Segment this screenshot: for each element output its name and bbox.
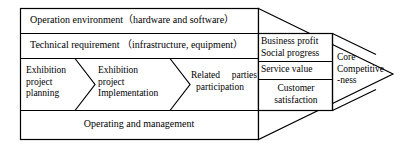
core-box-bottom-edge — [333, 90, 377, 111]
process-step-exhibition-project-planning: Exhibition project planning — [26, 65, 80, 100]
outcome-1-line1: Business profit — [261, 36, 318, 46]
process-step-1-line2: project — [26, 77, 52, 87]
core-line3: -ness — [337, 75, 357, 85]
layer-label-technical-requirement: Technical requirement （infrastructure, e… — [30, 39, 243, 51]
process-step-3-line2: participation — [191, 82, 257, 94]
process-step-2-line3: Implementation — [98, 88, 158, 98]
core-line1: Core — [337, 52, 355, 62]
outcome-1-line2: Social progress — [261, 48, 319, 58]
result-core-competitiveness: Core Competitive -ness — [337, 52, 391, 87]
process-step-1-line1: Exhibition — [26, 65, 66, 75]
outcome-business-profit-social-progress: Business profit Social progress — [261, 36, 331, 59]
outcome-service-value: Service value — [261, 64, 331, 76]
process-step-related-parties-participation: Related parties participation — [191, 70, 257, 93]
process-step-exhibition-project-implementation: Exhibition project Implementation — [98, 65, 174, 100]
layer-label-operating-and-management: Operating and management — [20, 118, 258, 130]
outcome-customer-satisfaction: Customer satisfaction — [261, 83, 331, 106]
process-step-1-line3: planning — [26, 88, 59, 98]
core-line2: Competitive — [337, 64, 384, 74]
layer-label-operation-environment: Operation environment（hardware and softw… — [30, 14, 234, 26]
outcome-3-line2: satisfaction — [274, 95, 317, 105]
process-step-2-line2: project — [98, 77, 124, 87]
process-step-2-line1: Exhibition — [98, 65, 138, 75]
outcome-3-line1: Customer — [278, 83, 315, 93]
core-competitiveness-framework-diagram: Operation environment（hardware and softw… — [0, 0, 408, 148]
process-step-3-line1: Related parties — [191, 70, 257, 82]
